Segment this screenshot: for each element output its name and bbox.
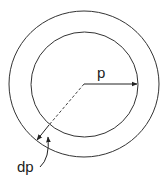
radius-label: p: [97, 64, 105, 81]
thickness-label: dp: [17, 158, 34, 175]
ring-diagram: p dp: [0, 0, 166, 182]
thickness-pointer-arrow: [40, 137, 48, 167]
thickness-arrow: [37, 125, 49, 140]
dashed-radius-line: [49, 84, 84, 125]
